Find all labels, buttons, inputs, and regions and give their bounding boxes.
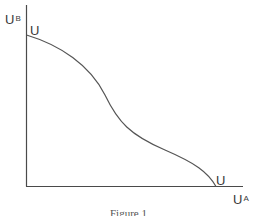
x-axis-label: UA xyxy=(233,193,249,206)
utility-possibility-curve xyxy=(27,35,217,187)
y-axis-label: UB xyxy=(5,13,21,26)
curve-end-label: U xyxy=(216,174,225,187)
figure-caption: Figure 1 xyxy=(0,207,257,216)
curve-start-label: U xyxy=(30,24,39,37)
